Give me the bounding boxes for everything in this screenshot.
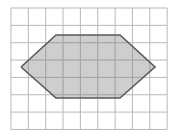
hexagon-grid-figure [0, 0, 176, 134]
figure-stage [0, 0, 176, 134]
